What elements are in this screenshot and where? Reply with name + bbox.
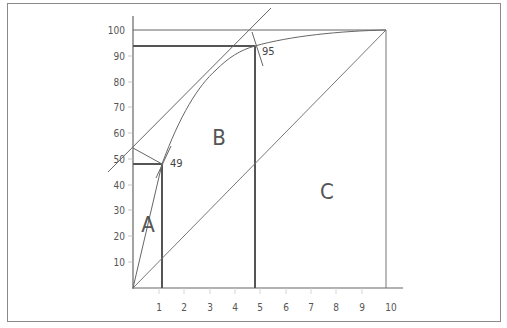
svg-text:20: 20	[114, 231, 126, 242]
region-label-c: C	[320, 179, 334, 204]
svg-text:1: 1	[156, 302, 162, 313]
svg-text:60: 60	[114, 128, 126, 139]
chart-canvas: 10 20 30 40 50 60 70 80 90 100 1 2 3 4 5…	[0, 0, 507, 328]
svg-text:3: 3	[207, 302, 213, 313]
label-49: 49	[170, 158, 183, 169]
svg-text:70: 70	[114, 102, 126, 113]
svg-text:50: 50	[114, 154, 126, 165]
label-95: 95	[262, 46, 275, 57]
svg-text:6: 6	[283, 302, 289, 313]
connector-line	[133, 148, 162, 164]
svg-text:9: 9	[359, 302, 365, 313]
region-label-a: A	[141, 212, 155, 237]
x-tick-marks	[159, 288, 362, 294]
svg-text:90: 90	[114, 51, 126, 62]
svg-text:10: 10	[114, 257, 126, 268]
svg-text:2: 2	[181, 302, 187, 313]
x-tick-labels: 1 2 3 4 5 6 7 8 9 10	[156, 302, 397, 313]
y-tick-marks	[128, 56, 133, 262]
svg-text:7: 7	[308, 302, 314, 313]
svg-text:10: 10	[385, 302, 397, 313]
region-label-b: B	[212, 125, 226, 150]
svg-text:30: 30	[114, 205, 126, 216]
y-tick-labels: 10 20 30 40 50 60 70 80 90 100	[108, 25, 125, 268]
svg-text:100: 100	[108, 25, 125, 36]
svg-text:8: 8	[333, 302, 339, 313]
svg-text:4: 4	[232, 302, 238, 313]
svg-text:5: 5	[257, 302, 263, 313]
svg-text:80: 80	[114, 77, 126, 88]
svg-text:40: 40	[114, 180, 126, 191]
